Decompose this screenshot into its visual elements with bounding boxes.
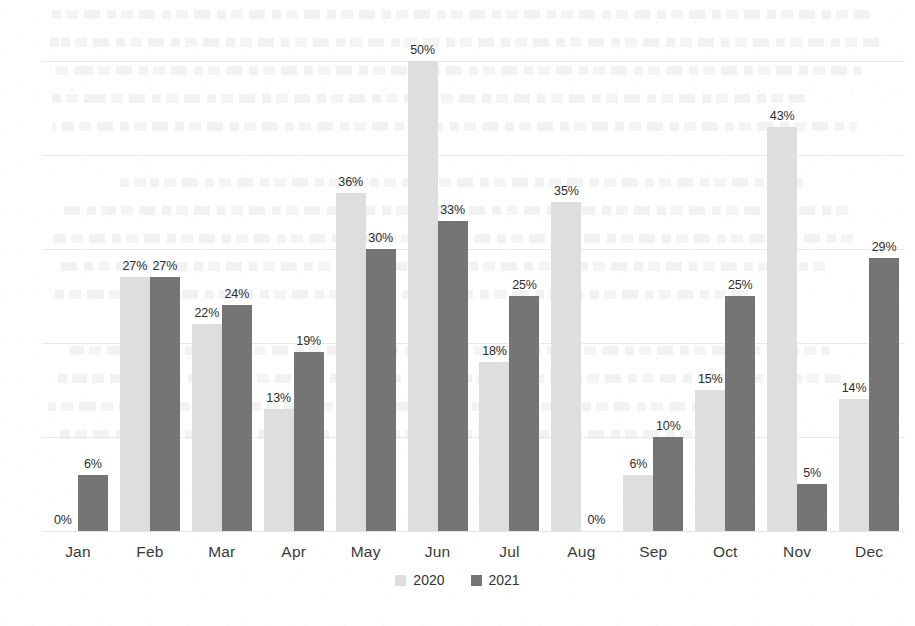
- bar-value-label-mar-2021: 24%: [224, 287, 249, 301]
- plot-area: 0%10%20%30%40%50% 0%6%Jan27%27%Feb22%24%…: [42, 61, 905, 531]
- bar-value-label-mar-2020: 22%: [194, 306, 219, 320]
- bar-value-label-may-2020: 36%: [338, 175, 363, 189]
- bar-group-bars: 36%30%: [330, 61, 402, 531]
- bar-group-may: 36%30%May: [330, 61, 402, 531]
- bar-value-label-oct-2020: 15%: [698, 372, 723, 386]
- bar-value-label-jul-2020: 18%: [482, 344, 507, 358]
- bar-sep-2021[interactable]: [653, 437, 683, 531]
- bar-slot-mar-2020[interactable]: 22%: [192, 61, 222, 531]
- bar-slot-jan-2021[interactable]: 6%: [78, 61, 108, 531]
- legend-label: 2021: [489, 572, 520, 588]
- bar-oct-2020[interactable]: [695, 390, 725, 531]
- x-axis-tick-feb: Feb: [114, 543, 186, 561]
- bar-group-apr: 13%19%Apr: [258, 61, 330, 531]
- bar-group-feb: 27%27%Feb: [114, 61, 186, 531]
- bar-group-jul: 18%25%Jul: [474, 61, 546, 531]
- bar-group-aug: 35%0%Aug: [545, 61, 617, 531]
- bar-value-label-dec-2021: 29%: [872, 240, 897, 254]
- bar-value-label-dec-2020: 14%: [842, 381, 867, 395]
- bar-slot-jun-2020[interactable]: 50%: [408, 61, 438, 531]
- bar-slot-sep-2020[interactable]: 6%: [623, 61, 653, 531]
- bar-jul-2020[interactable]: [479, 362, 509, 531]
- bar-value-label-feb-2020: 27%: [123, 259, 148, 273]
- bar-value-label-apr-2021: 19%: [296, 334, 321, 348]
- bar-slot-feb-2020[interactable]: 27%: [120, 61, 150, 531]
- bar-mar-2021[interactable]: [222, 305, 252, 531]
- bar-slot-jun-2021[interactable]: 33%: [438, 61, 468, 531]
- bar-value-label-sep-2020: 6%: [629, 457, 647, 471]
- bar-group-bars: 35%0%: [545, 61, 617, 531]
- bar-value-label-jun-2020: 50%: [410, 43, 435, 57]
- bar-slot-dec-2021[interactable]: 29%: [869, 61, 899, 531]
- legend-swatch-2020: [395, 575, 406, 586]
- x-axis-tick-jun: Jun: [402, 543, 474, 561]
- bar-feb-2021[interactable]: [150, 277, 180, 531]
- bar-value-label-jul-2021: 25%: [512, 278, 537, 292]
- bar-slot-nov-2020[interactable]: 43%: [767, 61, 797, 531]
- bar-group-oct: 15%25%Oct: [689, 61, 761, 531]
- bar-slot-aug-2020[interactable]: 35%: [551, 61, 581, 531]
- bar-value-label-feb-2021: 27%: [153, 259, 178, 273]
- legend-swatch-2021: [471, 575, 482, 586]
- bar-jul-2021[interactable]: [509, 296, 539, 531]
- bar-group-bars: 43%5%: [761, 61, 833, 531]
- bar-group-bars: 14%29%: [833, 61, 905, 531]
- bar-group-nov: 43%5%Nov: [761, 61, 833, 531]
- bar-groups: 0%6%Jan27%27%Feb22%24%Mar13%19%Apr36%30%…: [42, 61, 905, 531]
- bar-mar-2020[interactable]: [192, 324, 222, 531]
- bar-slot-oct-2021[interactable]: 25%: [725, 61, 755, 531]
- bar-slot-apr-2021[interactable]: 19%: [294, 61, 324, 531]
- bar-group-bars: 27%27%: [114, 61, 186, 531]
- bar-slot-jan-2020[interactable]: 0%: [48, 61, 78, 531]
- bar-slot-aug-2021[interactable]: 0%: [581, 61, 611, 531]
- bar-aug-2020[interactable]: [551, 202, 581, 531]
- legend-item-2021[interactable]: 2021: [471, 572, 520, 588]
- bar-value-label-nov-2020: 43%: [770, 109, 795, 123]
- bar-dec-2020[interactable]: [839, 399, 869, 531]
- bar-apr-2020[interactable]: [264, 409, 294, 531]
- bar-jan-2021[interactable]: [78, 475, 108, 531]
- bar-slot-feb-2021[interactable]: 27%: [150, 61, 180, 531]
- x-axis-tick-dec: Dec: [833, 543, 905, 561]
- bar-slot-nov-2021[interactable]: 5%: [797, 61, 827, 531]
- bar-group-bars: 13%19%: [258, 61, 330, 531]
- legend-label: 2020: [413, 572, 444, 588]
- bar-group-sep: 6%10%Sep: [617, 61, 689, 531]
- bar-slot-mar-2021[interactable]: 24%: [222, 61, 252, 531]
- bar-group-jan: 0%6%Jan: [42, 61, 114, 531]
- bar-feb-2020[interactable]: [120, 277, 150, 531]
- bar-slot-may-2020[interactable]: 36%: [336, 61, 366, 531]
- bar-value-label-oct-2021: 25%: [728, 278, 753, 292]
- bar-dec-2021[interactable]: [869, 258, 899, 531]
- grouped-bar-chart: 0%10%20%30%40%50% 0%6%Jan27%27%Feb22%24%…: [0, 0, 915, 626]
- x-axis-tick-oct: Oct: [689, 543, 761, 561]
- bar-slot-oct-2020[interactable]: 15%: [695, 61, 725, 531]
- x-axis-tick-aug: Aug: [545, 543, 617, 561]
- bar-slot-may-2021[interactable]: 30%: [366, 61, 396, 531]
- bar-slot-jul-2020[interactable]: 18%: [479, 61, 509, 531]
- bar-group-bars: 22%24%: [186, 61, 258, 531]
- bar-group-bars: 18%25%: [474, 61, 546, 531]
- bar-oct-2021[interactable]: [725, 296, 755, 531]
- bar-group-bars: 0%6%: [42, 61, 114, 531]
- bar-slot-sep-2021[interactable]: 10%: [653, 61, 683, 531]
- bar-apr-2021[interactable]: [294, 352, 324, 531]
- bar-value-label-jan-2021: 6%: [84, 457, 102, 471]
- bar-sep-2020[interactable]: [623, 475, 653, 531]
- legend-item-2020[interactable]: 2020: [395, 572, 444, 588]
- chart-legend: 20202021: [0, 572, 915, 588]
- bar-may-2020[interactable]: [336, 193, 366, 531]
- bar-group-bars: 6%10%: [617, 61, 689, 531]
- bar-jun-2020[interactable]: [408, 61, 438, 531]
- bar-jun-2021[interactable]: [438, 221, 468, 531]
- bar-nov-2021[interactable]: [797, 484, 827, 531]
- bar-value-label-apr-2020: 13%: [266, 391, 291, 405]
- bar-value-label-jan-2020: 0%: [54, 513, 72, 527]
- bar-may-2021[interactable]: [366, 249, 396, 531]
- bar-slot-jul-2021[interactable]: 25%: [509, 61, 539, 531]
- bar-value-label-aug-2021: 0%: [587, 513, 605, 527]
- bar-value-label-nov-2021: 5%: [803, 466, 821, 480]
- bar-slot-apr-2020[interactable]: 13%: [264, 61, 294, 531]
- bar-nov-2020[interactable]: [767, 127, 797, 531]
- bar-slot-dec-2020[interactable]: 14%: [839, 61, 869, 531]
